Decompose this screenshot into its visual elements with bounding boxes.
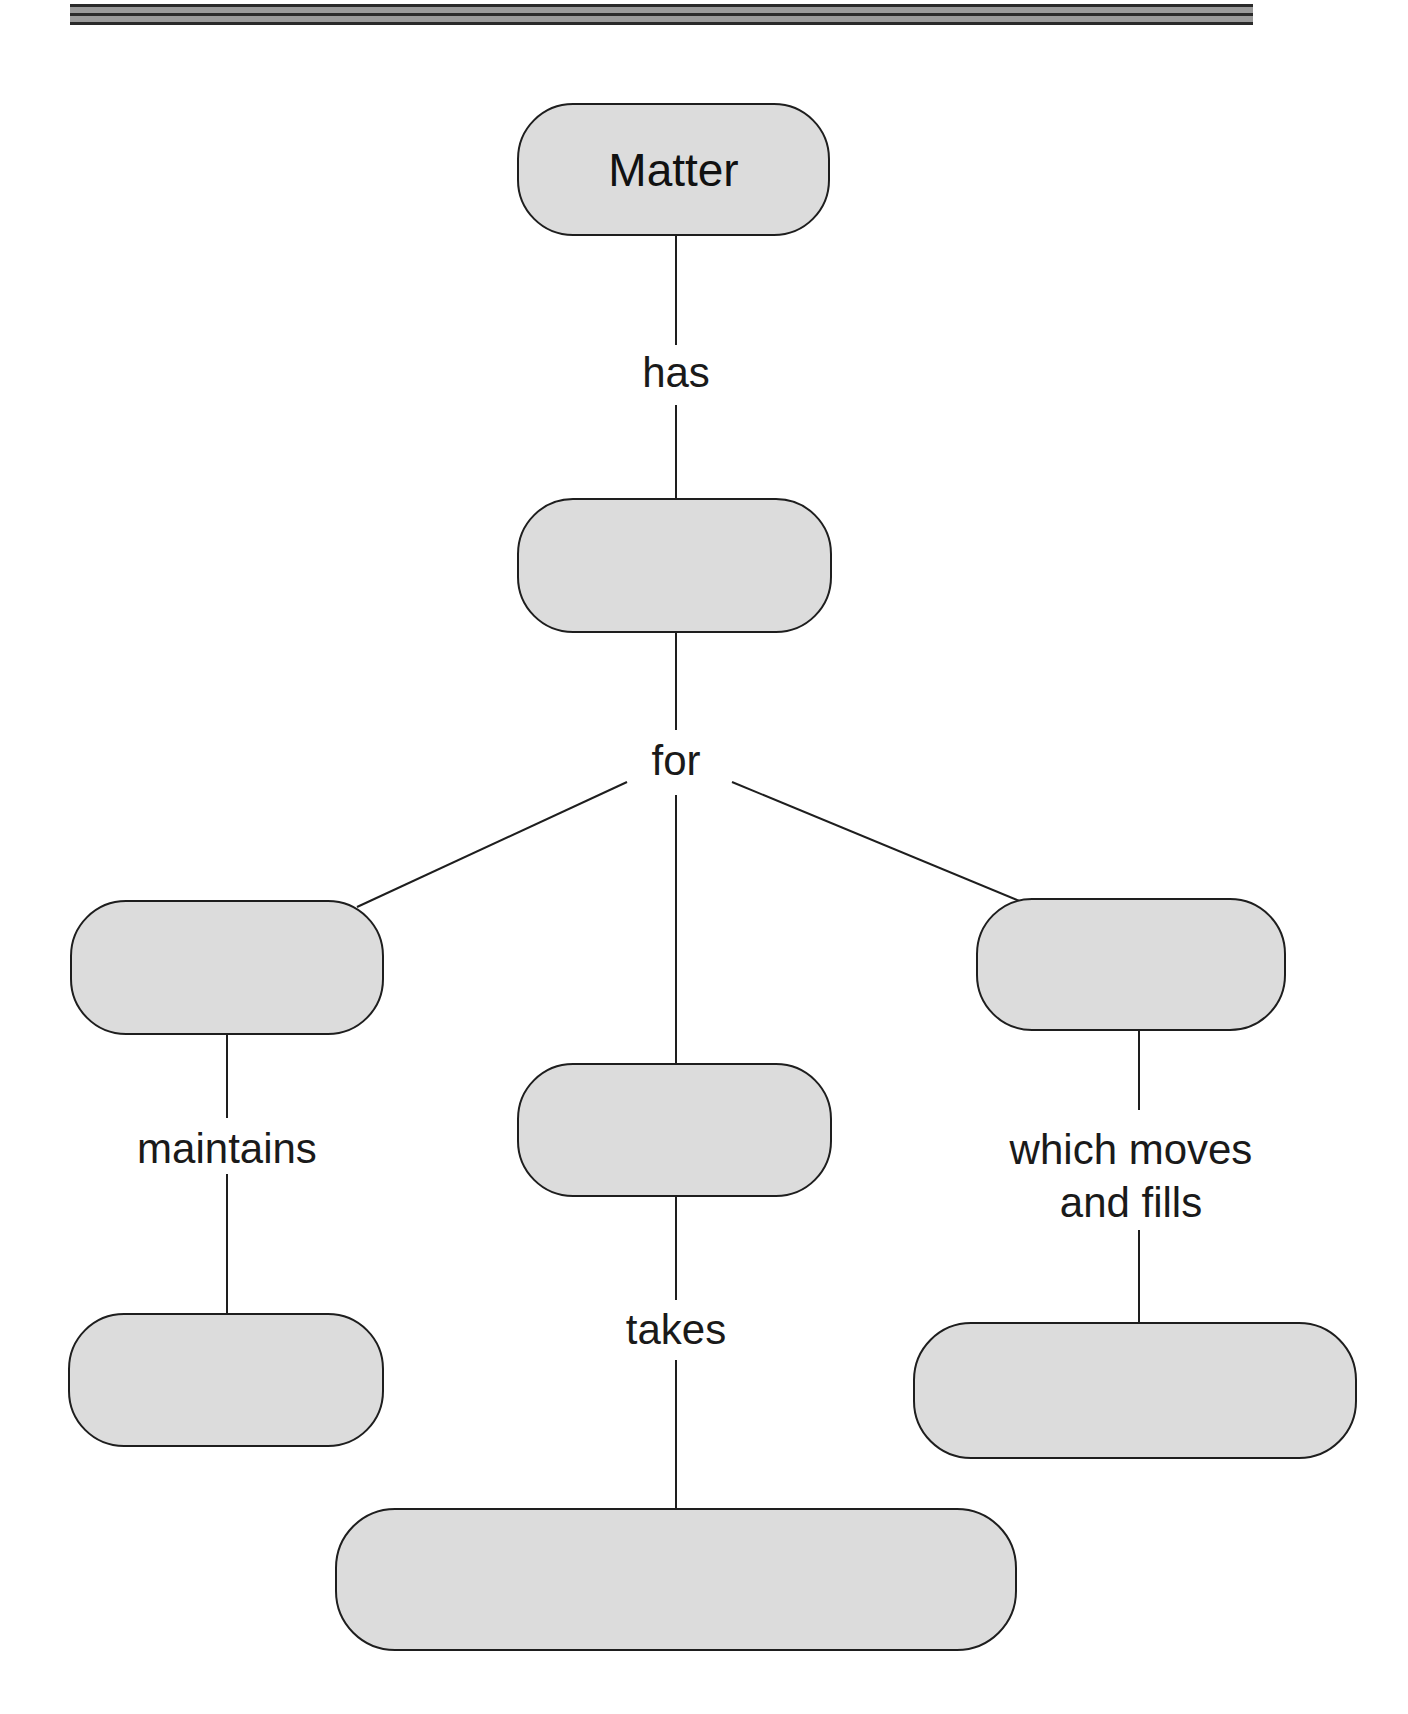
link-label-has: has (642, 348, 710, 398)
link-label-which-moves: which moves (1010, 1125, 1253, 1175)
node-level2-blank[interactable] (517, 498, 832, 633)
connector-for-right (732, 782, 1022, 902)
connector-for-left (357, 782, 627, 907)
link-label-maintains: maintains (137, 1124, 317, 1174)
node-matter-label: Matter (608, 143, 738, 197)
node-right-bottom-blank[interactable] (913, 1322, 1357, 1459)
node-left-bottom-blank[interactable] (68, 1313, 384, 1447)
link-label-for: for (651, 736, 700, 786)
node-left-blank[interactable] (70, 900, 384, 1035)
node-matter: Matter (517, 103, 830, 236)
link-label-and-fills: and fills (1060, 1178, 1202, 1228)
node-center-bottom-blank[interactable] (335, 1508, 1017, 1651)
link-label-takes: takes (626, 1305, 726, 1355)
node-center-blank[interactable] (517, 1063, 832, 1197)
node-right-blank[interactable] (976, 898, 1286, 1031)
